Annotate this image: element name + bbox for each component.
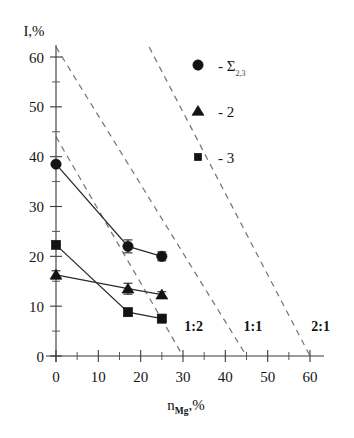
x-tick-label: 10 bbox=[91, 369, 106, 385]
legend-item--23[interactable]: - Σ2,3 bbox=[193, 58, 246, 78]
y-tick-label: 50 bbox=[29, 99, 44, 115]
legend-marker-triangle bbox=[192, 105, 204, 115]
y-tick-label: 0 bbox=[37, 349, 45, 365]
y-tick-label: 60 bbox=[29, 50, 44, 66]
x-tick-label: 60 bbox=[303, 369, 318, 385]
chart-container: 01020304050600102030405060 I,%nMg,% 1:21… bbox=[0, 0, 354, 438]
data-point-square bbox=[123, 308, 132, 317]
y-axis-title: I,% bbox=[23, 23, 44, 39]
series-circle bbox=[51, 159, 167, 262]
reference-label-2-1: 2:1 bbox=[311, 319, 330, 334]
legend-marker-square bbox=[194, 153, 201, 160]
reference-lines-group bbox=[56, 47, 310, 356]
axes-group bbox=[46, 45, 324, 362]
x-tick-label: 50 bbox=[260, 369, 275, 385]
data-point-square bbox=[157, 314, 166, 323]
data-point-circle bbox=[157, 251, 167, 261]
x-axis-title: nMg,% bbox=[167, 397, 204, 416]
y-tick-label: 40 bbox=[29, 149, 44, 165]
x-tick-label: 40 bbox=[218, 369, 233, 385]
data-point-square bbox=[51, 240, 60, 249]
legend-item-3[interactable]: - 3 bbox=[194, 150, 234, 166]
legend-marker-circle bbox=[193, 60, 203, 70]
chart-svg: 01020304050600102030405060 I,%nMg,% 1:21… bbox=[0, 0, 354, 438]
legend-label: - Σ2,3 bbox=[218, 58, 245, 78]
y-tick-label: 10 bbox=[29, 299, 44, 315]
axis-titles-group: I,%nMg,% bbox=[23, 23, 204, 416]
reference-labels-group: 1:21:12:1 bbox=[184, 319, 330, 334]
series-line bbox=[56, 275, 162, 295]
legend-item-2[interactable]: - 2 bbox=[192, 104, 234, 120]
reference-line-1-1 bbox=[56, 47, 247, 356]
x-tick-label: 0 bbox=[52, 369, 60, 385]
data-point-circle bbox=[123, 241, 133, 251]
y-tick-label: 30 bbox=[29, 199, 44, 215]
tick-labels-group: 01020304050600102030405060 bbox=[29, 50, 318, 386]
series-line bbox=[56, 245, 162, 319]
x-tick-label: 20 bbox=[133, 369, 148, 385]
legend-label: - 3 bbox=[218, 150, 234, 166]
reference-label-1-1: 1:1 bbox=[244, 319, 263, 334]
series-line bbox=[56, 164, 162, 256]
x-tick-label: 30 bbox=[176, 369, 191, 385]
reference-label-1-2: 1:2 bbox=[184, 319, 203, 334]
legend-group: - Σ2,3- 2- 3 bbox=[192, 58, 245, 166]
legend-label: - 2 bbox=[218, 104, 234, 120]
reference-line-2-1 bbox=[149, 47, 310, 356]
data-point-circle bbox=[51, 159, 61, 169]
y-tick-label: 20 bbox=[29, 249, 44, 265]
